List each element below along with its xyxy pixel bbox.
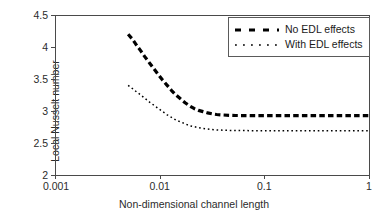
legend-item-with-edl-effects[interactable]: With EDL effects: [234, 37, 363, 52]
chart-figure: Local Nusselt number Non-dimensional cha…: [0, 0, 388, 222]
legend-swatch-fine-dotted: [234, 39, 280, 51]
legend-label-with-edl-effects: With EDL effects: [285, 39, 363, 50]
series-line-with-edl-effects: [128, 85, 369, 130]
top-spine: [55, 15, 370, 16]
x-tick: [264, 175, 265, 179]
x-tick-label: 0.1: [257, 181, 272, 192]
y-tick: [51, 111, 55, 112]
y-tick: [51, 47, 55, 48]
y-tick-label: 4: [42, 42, 48, 53]
x-tick: [369, 175, 370, 179]
y-tick-label: 3.5: [33, 74, 48, 85]
x-tick-label: 1: [366, 181, 372, 192]
y-tick-label: 4.5: [33, 10, 48, 21]
legend-label-no-edl-effects: No EDL effects: [285, 24, 355, 35]
x-tick-label: 0.001: [43, 181, 69, 192]
x-tick-label: 0.01: [149, 181, 169, 192]
legend: No EDL effects With EDL effects: [228, 17, 370, 57]
x-tick: [160, 175, 161, 179]
y-tick-label: 3: [42, 106, 48, 117]
x-axis-line: [55, 175, 370, 176]
y-tick-label: 2.5: [33, 138, 48, 149]
legend-item-no-edl-effects[interactable]: No EDL effects: [234, 22, 363, 37]
x-axis-title: Non-dimensional channel length: [0, 198, 388, 210]
y-tick: [51, 15, 55, 16]
y-tick: [51, 143, 55, 144]
x-tick: [55, 175, 56, 179]
y-axis-line: [55, 15, 56, 175]
y-tick: [51, 79, 55, 80]
legend-swatch-thick-dashed: [234, 24, 280, 36]
y-tick-label: 2: [42, 170, 48, 181]
